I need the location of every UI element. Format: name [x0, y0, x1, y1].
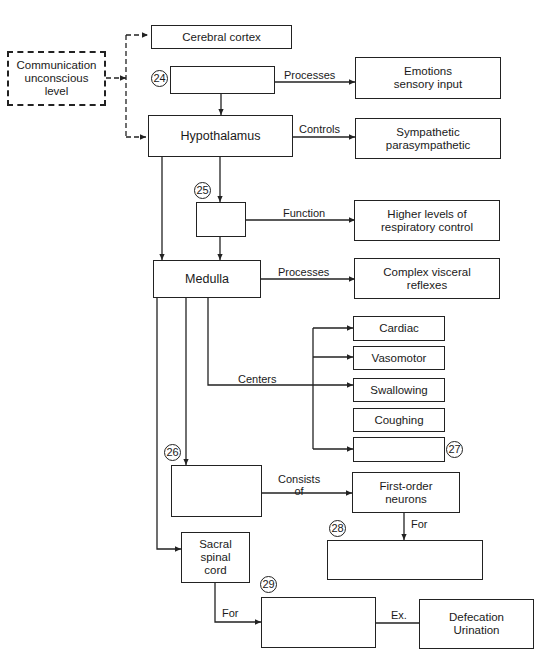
label-processes-2: Processes — [278, 266, 329, 278]
first-order-neurons-box: First-order neurons — [352, 472, 460, 513]
label-processes-1: Processes — [284, 69, 335, 81]
defecation-urination-box: Defecation Urination — [419, 599, 534, 649]
label-consists-of: Consists of — [278, 473, 320, 497]
number-badge-27: 27 — [446, 441, 463, 458]
higher-respiratory-control-box: Higher levels of respiratory control — [354, 200, 500, 241]
label-for-1: For — [411, 518, 428, 530]
cerebral-cortex-box: Cerebral cortex — [151, 25, 292, 49]
sympathetic-parasympathetic-box: Sympathetic parasympathetic — [355, 118, 501, 159]
number-badge-24: 24 — [151, 70, 168, 87]
swallowing-box: Swallowing — [353, 378, 445, 402]
cardiac-box: Cardiac — [353, 316, 445, 341]
number-badge-28: 28 — [329, 520, 346, 537]
label-for-2: For — [222, 607, 239, 619]
label-centers: Centers — [238, 373, 277, 385]
label-ex: Ex. — [391, 609, 407, 621]
number-badge-26: 26 — [164, 444, 181, 461]
emotions-sensory-input-box: Emotions sensory input — [355, 57, 501, 99]
complex-visceral-reflexes-box: Complex visceral reflexes — [354, 258, 500, 299]
communication-unconscious-level-box: Communication unconscious level — [7, 51, 106, 106]
sacral-spinal-cord-box: Sacral spinal cord — [181, 532, 250, 583]
blank-box-26[interactable] — [171, 465, 262, 517]
label-controls: Controls — [299, 123, 340, 135]
blank-box-28[interactable] — [327, 540, 483, 580]
hypothalamus-box: Hypothalamus — [148, 115, 293, 157]
blank-box-24[interactable] — [170, 66, 275, 94]
blank-box-27[interactable] — [353, 437, 445, 462]
label-function: Function — [283, 207, 325, 219]
blank-box-25[interactable] — [196, 202, 246, 237]
blank-box-29[interactable] — [261, 597, 376, 648]
number-badge-29: 29 — [260, 576, 277, 593]
medulla-box: Medulla — [153, 260, 261, 298]
number-badge-25: 25 — [194, 182, 211, 199]
coughing-box: Coughing — [353, 408, 445, 432]
vasomotor-box: Vasomotor — [353, 346, 445, 370]
